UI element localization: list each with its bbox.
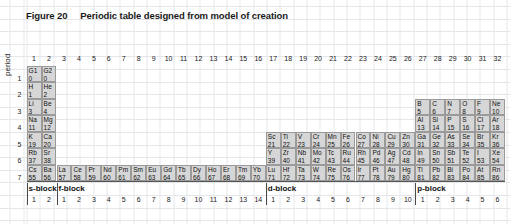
element-cell-Ce[interactable]: Ce58 [71,165,86,182]
element-cell-H[interactable]: H1 [27,82,42,99]
element-cell-Gd[interactable]: Gd64 [161,165,176,182]
element-symbol: Se [462,133,470,141]
element-cell-Y[interactable]: Y39 [266,148,281,165]
element-cell-Cl[interactable]: Cl17 [475,115,490,132]
element-cell-Pt[interactable]: Pt78 [370,165,385,182]
element-cell-G1[interactable]: G10 [27,66,42,83]
element-cell-Se[interactable]: Se34 [460,132,475,149]
element-cell-N[interactable]: N7 [445,99,460,116]
element-cell-Sc[interactable]: Sc21 [266,132,281,149]
block-index-f-block-13: 13 [236,195,251,204]
element-cell-O[interactable]: O8 [460,99,475,116]
element-cell-Ne[interactable]: Ne10 [490,99,505,116]
element-cell-Rn[interactable]: Rn86 [490,165,505,182]
element-cell-Be[interactable]: Be4 [42,99,57,116]
element-atomic-number: 15 [447,124,454,132]
element-cell-Ti[interactable]: Ti22 [281,132,296,149]
element-cell-Au[interactable]: Au79 [385,165,400,182]
element-cell-Li[interactable]: Li3 [27,99,42,116]
element-cell-Ba[interactable]: Ba56 [42,165,57,182]
element-cell-Po[interactable]: Po84 [460,165,475,182]
element-cell-P[interactable]: P15 [445,115,460,132]
element-cell-Ge[interactable]: Ge32 [430,132,445,149]
element-cell-Ag[interactable]: Ag47 [385,148,400,165]
element-cell-Pb[interactable]: Pb82 [430,165,445,182]
element-cell-Sn[interactable]: Sn50 [430,148,445,165]
element-cell-In[interactable]: In49 [415,148,430,165]
element-cell-Rh[interactable]: Rh45 [356,148,371,165]
element-cell-G2[interactable]: G20 [42,66,57,83]
element-cell-Te[interactable]: Te52 [460,148,475,165]
element-cell-Ta[interactable]: Ta73 [296,165,311,182]
element-cell-Zr[interactable]: Zr40 [281,148,296,165]
element-cell-B[interactable]: B5 [415,99,430,116]
element-cell-Mg[interactable]: Mg12 [42,115,57,132]
element-cell-Yb[interactable]: Yb70 [251,165,266,182]
element-cell-Zn[interactable]: Zn30 [400,132,415,149]
element-symbol: Rb [29,149,37,157]
element-cell-W[interactable]: W74 [311,165,326,182]
element-cell-F[interactable]: F9 [475,99,490,116]
element-atomic-number: 81 [417,174,424,182]
element-cell-Ru[interactable]: Ru44 [341,148,356,165]
element-cell-Tc[interactable]: Tc43 [326,148,341,165]
element-cell-Sm[interactable]: Sm62 [131,165,146,182]
element-cell-Cu[interactable]: Cu29 [385,132,400,149]
element-cell-Mn[interactable]: Mn25 [326,132,341,149]
element-cell-Os[interactable]: Os76 [341,165,356,182]
element-atomic-number: 2 [44,91,48,99]
element-cell-Hf[interactable]: Hf72 [281,165,296,182]
element-atomic-number: 37 [29,157,36,165]
element-cell-K[interactable]: K19 [27,132,42,149]
element-cell-Dy[interactable]: Dy66 [191,165,206,182]
element-cell-Al[interactable]: Al13 [415,115,430,132]
element-cell-Pd[interactable]: Pd46 [370,148,385,165]
element-cell-I[interactable]: I53 [475,148,490,165]
element-cell-Ar[interactable]: Ar18 [490,115,505,132]
element-cell-C[interactable]: C6 [430,99,445,116]
element-cell-He[interactable]: He2 [42,82,57,99]
element-cell-At[interactable]: At85 [475,165,490,182]
element-cell-Kr[interactable]: Kr36 [490,132,505,149]
element-cell-Tl[interactable]: Tl81 [415,165,430,182]
element-cell-As[interactable]: As33 [445,132,460,149]
element-cell-Ga[interactable]: Ga31 [415,132,430,149]
element-symbol: Lu [268,166,275,174]
element-cell-Ho[interactable]: Ho67 [206,165,221,182]
element-cell-Cr[interactable]: Cr24 [311,132,326,149]
block-index-f-block-10: 10 [191,195,206,204]
element-symbol: Ne [492,100,500,108]
element-cell-Er[interactable]: Er68 [221,165,236,182]
element-cell-Cd[interactable]: Cd48 [400,148,415,165]
element-cell-Nb[interactable]: Nb41 [296,148,311,165]
element-atomic-number: 44 [343,157,350,165]
element-cell-Br[interactable]: Br35 [475,132,490,149]
element-cell-Ir[interactable]: Ir77 [356,165,371,182]
element-atomic-number: 59 [88,174,95,182]
element-cell-Fe[interactable]: Fe26 [341,132,356,149]
element-cell-Xe[interactable]: Xe54 [490,148,505,165]
element-cell-Sb[interactable]: Sb51 [445,148,460,165]
element-cell-Mo[interactable]: Mo42 [311,148,326,165]
element-cell-Co[interactable]: Co27 [356,132,371,149]
element-cell-Hg[interactable]: Hg80 [400,165,415,182]
element-cell-Lu[interactable]: Lu71 [266,165,281,182]
element-cell-Bi[interactable]: Bi83 [445,165,460,182]
element-cell-Na[interactable]: Na11 [27,115,42,132]
element-cell-Re[interactable]: Re75 [326,165,341,182]
element-cell-La[interactable]: La57 [57,165,72,182]
element-cell-Ni[interactable]: Ni28 [370,132,385,149]
element-cell-Nd[interactable]: Nd60 [101,165,116,182]
element-cell-Pr[interactable]: Pr59 [86,165,101,182]
element-cell-Ca[interactable]: Ca20 [42,132,57,149]
element-cell-Rb[interactable]: Rb37 [27,148,42,165]
element-cell-S[interactable]: S16 [460,115,475,132]
element-cell-Si[interactable]: Si14 [430,115,445,132]
element-cell-Eu[interactable]: Eu63 [146,165,161,182]
element-cell-Sr[interactable]: Sr38 [42,148,57,165]
element-cell-V[interactable]: V23 [296,132,311,149]
element-cell-Pm[interactable]: Pm61 [116,165,131,182]
element-cell-Tb[interactable]: Tb65 [176,165,191,182]
element-cell-Tm[interactable]: Tm69 [236,165,251,182]
element-cell-Cs[interactable]: Cs55 [27,165,42,182]
